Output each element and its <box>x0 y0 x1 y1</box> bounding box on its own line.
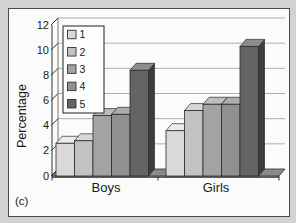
legend-label-1: 1 <box>80 28 86 40</box>
legend-label-4: 4 <box>80 80 86 92</box>
legend-swatch-5 <box>68 99 77 108</box>
bar-boys-s3 <box>93 116 112 176</box>
bar-side-girls-s5 <box>259 39 265 176</box>
bar-chart-3d: 024681012PercentageBoysGirls12345 <box>9 9 288 215</box>
legend-label-5: 5 <box>80 98 86 110</box>
bar-girls-s5 <box>240 46 259 176</box>
bar-boys-s2 <box>75 141 94 176</box>
legend-swatch-3 <box>68 65 77 74</box>
y-tick-label-6: 6 <box>43 94 49 106</box>
bar-girls-s3 <box>203 104 222 176</box>
bar-girls-s1 <box>166 131 185 176</box>
x-category-label-girls: Girls <box>203 180 230 195</box>
figure-caption-label: (c) <box>15 195 28 207</box>
legend-label-3: 3 <box>80 63 86 75</box>
figure: 024681012PercentageBoysGirls12345 (c) <box>0 0 296 223</box>
bar-side-boys-s5 <box>149 63 155 176</box>
y-tick-12 <box>51 18 58 25</box>
legend-swatch-1 <box>68 30 77 39</box>
y-tick-label-2: 2 <box>43 144 49 156</box>
y-tick-label-12: 12 <box>37 19 49 31</box>
bar-girls-s2 <box>185 111 204 176</box>
legend-swatch-4 <box>68 82 77 91</box>
x-category-label-boys: Boys <box>92 180 121 195</box>
y-tick-label-4: 4 <box>43 119 49 131</box>
chart-frame: 024681012PercentageBoysGirls12345 (c) <box>8 8 290 217</box>
y-tick-label-8: 8 <box>43 69 49 81</box>
legend-label-2: 2 <box>80 46 86 58</box>
bar-boys-s5 <box>130 70 149 176</box>
y-tick-label-0: 0 <box>43 170 49 182</box>
y-tick-label-10: 10 <box>37 44 49 56</box>
bar-boys-s1 <box>56 143 75 176</box>
legend-swatch-2 <box>68 48 77 57</box>
bar-boys-s4 <box>112 114 131 176</box>
bar-girls-s4 <box>222 104 241 176</box>
y-axis-title: Percentage <box>15 84 29 148</box>
